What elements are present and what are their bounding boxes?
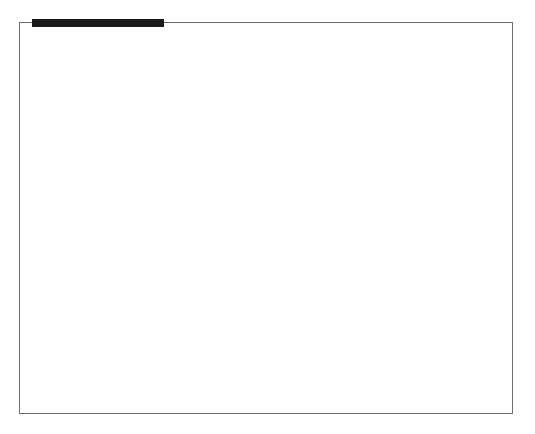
figure-container (19, 22, 513, 414)
chart-plot (20, 23, 514, 415)
